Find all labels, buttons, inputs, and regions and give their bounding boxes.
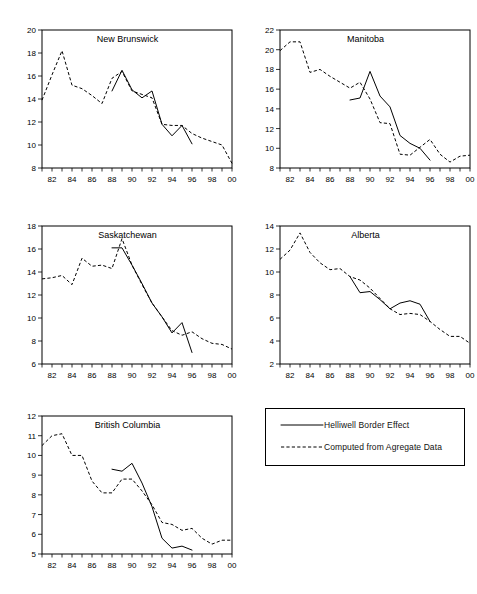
- x-tick-label: 84: [68, 561, 77, 570]
- y-tick-label: 5: [32, 550, 37, 559]
- panel-title: British Columbia: [95, 420, 161, 430]
- y-tick-label: 16: [27, 245, 36, 254]
- y-tick-label: 12: [265, 125, 274, 134]
- x-tick-label: 96: [188, 371, 197, 380]
- x-tick-label: 88: [346, 371, 355, 380]
- y-tick-label: 8: [270, 164, 275, 173]
- figure-canvas: 810121416182082848688909294969800New Bru…: [0, 0, 477, 594]
- y-tick-label: 22: [265, 26, 274, 35]
- y-tick-label: 14: [27, 268, 36, 277]
- x-tick-label: 90: [366, 371, 375, 380]
- x-tick-label: 92: [148, 561, 157, 570]
- y-tick-label: 18: [27, 222, 36, 231]
- panel-saskatchewan: 68101214161882848688909294969800Saskatch…: [10, 210, 238, 390]
- x-tick-label: 98: [446, 175, 455, 184]
- x-tick-label: 82: [286, 175, 295, 184]
- x-tick-label: 86: [326, 175, 335, 184]
- panel-title: Alberta: [351, 230, 380, 240]
- y-tick-label: 14: [27, 95, 36, 104]
- x-tick-label: 88: [108, 175, 117, 184]
- x-tick-label: 88: [108, 371, 117, 380]
- legend-label-dashed: Computed from Agregate Data: [324, 442, 442, 452]
- x-tick-label: 82: [48, 371, 57, 380]
- legend-label-solid: Helliwell Border Effect: [324, 420, 409, 430]
- x-tick-label: 84: [68, 371, 77, 380]
- legend-entry-dashed: Computed from Agregate Data: [280, 442, 442, 452]
- x-tick-label: 84: [68, 175, 77, 184]
- x-tick-label: 00: [466, 371, 475, 380]
- y-tick-label: 6: [32, 360, 37, 369]
- plot-area: 81012141618202282848688909294969800Manit…: [248, 14, 476, 194]
- y-tick-label: 6: [270, 314, 275, 323]
- y-tick-label: 7: [32, 511, 37, 520]
- y-tick-label: 10: [27, 451, 36, 460]
- y-tick-label: 10: [27, 314, 36, 323]
- y-tick-label: 16: [265, 85, 274, 94]
- y-tick-label: 16: [27, 72, 36, 81]
- y-tick-label: 9: [32, 471, 37, 480]
- panel-alberta: 246810121482848688909294969800Alberta: [248, 210, 476, 390]
- series-line-helliwell: [112, 248, 192, 353]
- x-tick-label: 86: [326, 371, 335, 380]
- x-tick-label: 94: [168, 175, 177, 184]
- x-tick-label: 88: [108, 561, 117, 570]
- y-tick-label: 18: [265, 65, 274, 74]
- panel-manitoba: 81012141618202282848688909294969800Manit…: [248, 14, 476, 194]
- x-tick-label: 94: [168, 561, 177, 570]
- x-tick-label: 96: [188, 561, 197, 570]
- plot-frame: [42, 30, 232, 168]
- x-tick-label: 96: [426, 371, 435, 380]
- y-tick-label: 8: [270, 291, 275, 300]
- x-tick-label: 82: [48, 561, 57, 570]
- x-tick-label: 88: [346, 175, 355, 184]
- legend-swatch-solid: [280, 420, 324, 430]
- x-tick-label: 96: [426, 175, 435, 184]
- panel-title: Manitoba: [347, 34, 384, 44]
- y-tick-label: 10: [27, 141, 36, 150]
- series-line-helliwell: [112, 463, 192, 550]
- series-legend: Helliwell Border Effect Computed from Ag…: [265, 408, 465, 466]
- x-tick-label: 90: [128, 561, 137, 570]
- x-tick-label: 00: [466, 175, 475, 184]
- y-tick-label: 14: [265, 105, 274, 114]
- x-tick-label: 00: [228, 175, 237, 184]
- x-tick-label: 86: [88, 175, 97, 184]
- x-tick-label: 82: [286, 371, 295, 380]
- plot-area: 68101214161882848688909294969800Saskatch…: [10, 210, 238, 390]
- panel-title: Saskatchewan: [98, 230, 157, 240]
- x-tick-label: 00: [228, 561, 237, 570]
- x-tick-label: 00: [228, 371, 237, 380]
- panel-british-columbia: 5678910111282848688909294969800British C…: [10, 400, 238, 580]
- x-tick-label: 98: [208, 371, 217, 380]
- series-line-aggregate: [42, 239, 232, 349]
- series-line-helliwell: [112, 70, 192, 144]
- legend-swatch-dashed: [280, 442, 324, 452]
- series-line-aggregate: [280, 42, 470, 162]
- x-tick-label: 90: [128, 371, 137, 380]
- y-tick-label: 20: [265, 46, 274, 55]
- y-tick-label: 12: [27, 291, 36, 300]
- plot-area: 810121416182082848688909294969800New Bru…: [10, 14, 238, 194]
- x-tick-label: 98: [208, 175, 217, 184]
- x-tick-label: 94: [406, 371, 415, 380]
- y-tick-label: 12: [265, 245, 274, 254]
- x-tick-label: 92: [148, 175, 157, 184]
- panel-title: New Brunswick: [97, 34, 159, 44]
- x-tick-label: 96: [188, 175, 197, 184]
- x-tick-label: 84: [306, 175, 315, 184]
- x-tick-label: 90: [366, 175, 375, 184]
- y-tick-label: 14: [265, 222, 274, 231]
- x-tick-label: 92: [148, 371, 157, 380]
- y-tick-label: 18: [27, 49, 36, 58]
- y-tick-label: 8: [32, 491, 37, 500]
- y-tick-label: 6: [32, 530, 37, 539]
- x-tick-label: 98: [208, 561, 217, 570]
- plot-frame: [280, 30, 470, 168]
- x-tick-label: 84: [306, 371, 315, 380]
- x-tick-label: 86: [88, 371, 97, 380]
- x-tick-label: 94: [168, 371, 177, 380]
- y-tick-label: 10: [265, 268, 274, 277]
- y-tick-label: 11: [28, 432, 37, 441]
- plot-area: 246810121482848688909294969800Alberta: [248, 210, 476, 390]
- series-line-aggregate: [42, 434, 232, 544]
